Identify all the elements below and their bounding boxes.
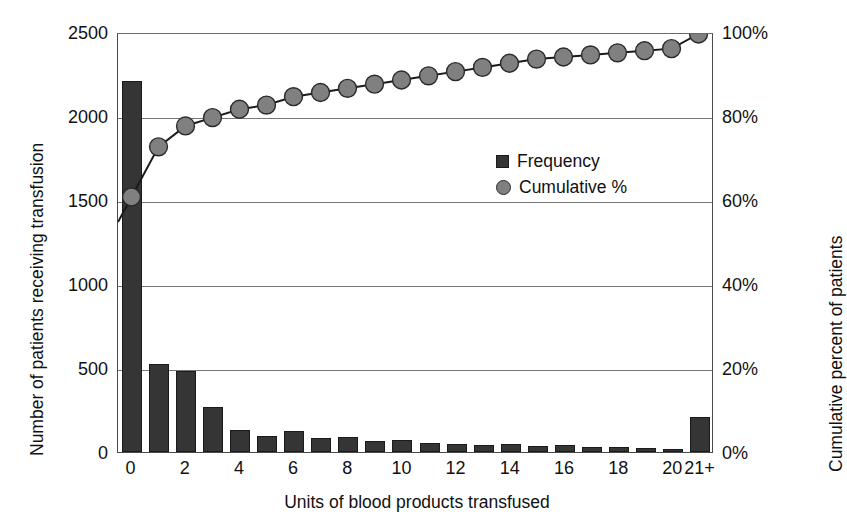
- cumulative-marker: [312, 84, 330, 102]
- legend-item-cumulative-percent: Cumulative %: [496, 174, 627, 200]
- legend-label-cumulative-percent: Cumulative %: [519, 174, 627, 200]
- cumulative-marker: [285, 88, 303, 106]
- y-axis-left-title: Number of patients receiving transfusion: [0, 0, 30, 529]
- cumulative-marker: [528, 50, 546, 68]
- y-axis-left-ticks: 05001000150020002500: [40, 0, 108, 529]
- cumulative-marker: [393, 71, 411, 89]
- cumulative-marker: [258, 96, 276, 114]
- cumulative-marker: [582, 46, 600, 64]
- x-axis-tick-label: 8: [342, 458, 352, 479]
- y-axis-left-tick-label: 1500: [68, 191, 108, 212]
- cumulative-marker: [231, 100, 249, 118]
- cumulative-marker: [420, 67, 438, 85]
- y-axis-left-tick-label: 1000: [68, 275, 108, 296]
- cumulative-marker: [609, 44, 627, 62]
- x-axis-tick-label: 16: [554, 458, 574, 479]
- y-axis-right-tick-label: 80%: [722, 107, 758, 128]
- y-axis-right-tick-label: 100%: [722, 23, 768, 44]
- y-axis-left-tick-label: 2500: [68, 23, 108, 44]
- cumulative-marker: [474, 58, 492, 76]
- line-series-cumulative-percent: [118, 34, 712, 452]
- x-axis-tick-label: 10: [391, 458, 411, 479]
- y-axis-left-tick-label: 2000: [68, 107, 108, 128]
- x-axis-tick-label: 0: [126, 458, 136, 479]
- x-axis-title: Units of blood products transfused: [0, 492, 834, 513]
- y-axis-right-tick-label: 0%: [722, 443, 748, 464]
- cumulative-marker: [123, 188, 141, 206]
- cumulative-marker: [150, 138, 168, 156]
- x-axis-tick-label: 21+: [684, 458, 715, 479]
- legend: Frequency Cumulative %: [496, 148, 627, 200]
- x-axis-tick-label: 14: [500, 458, 520, 479]
- y-axis-left-tick-label: 500: [78, 359, 108, 380]
- y-axis-right-tick-label: 60%: [722, 191, 758, 212]
- cumulative-marker: [663, 40, 681, 58]
- cumulative-marker: [636, 42, 654, 60]
- cumulative-marker: [690, 34, 708, 43]
- legend-circle-icon: [496, 180, 511, 195]
- legend-square-icon: [496, 155, 509, 168]
- y-axis-right-title-text: Cumulative percent of patients: [826, 236, 847, 472]
- x-axis-tick-label: 6: [288, 458, 298, 479]
- x-axis-title-text: Units of blood products transfused: [284, 492, 550, 512]
- legend-item-frequency: Frequency: [496, 148, 627, 174]
- cumulative-marker: [366, 75, 384, 93]
- y-axis-right-ticks: 0%20%40%60%80%100%: [722, 0, 794, 529]
- x-axis-tick-label: 18: [608, 458, 628, 479]
- y-axis-right-tick-label: 20%: [722, 359, 758, 380]
- y-axis-left-tick-label: 0: [98, 443, 108, 464]
- cumulative-marker: [177, 117, 195, 135]
- x-axis-tick-label: 20: [662, 458, 682, 479]
- cumulative-marker: [501, 54, 519, 72]
- cumulative-marker: [339, 79, 357, 97]
- cumulative-marker: [555, 48, 573, 66]
- plot-area: [117, 33, 713, 453]
- legend-label-frequency: Frequency: [517, 148, 600, 174]
- x-axis-tick-label: 4: [234, 458, 244, 479]
- y-axis-right-tick-label: 40%: [722, 275, 758, 296]
- x-axis-tick-label: 12: [446, 458, 466, 479]
- cumulative-marker: [204, 109, 222, 127]
- x-axis-tick-label: 2: [180, 458, 190, 479]
- cumulative-marker: [447, 63, 465, 81]
